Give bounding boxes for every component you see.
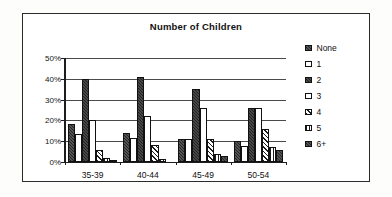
bar-group bbox=[231, 58, 286, 162]
plot-area: 0%10%20%30%40%50%35-3940-4445-4950-54 bbox=[65, 58, 286, 162]
bar-group bbox=[120, 58, 175, 162]
y-axis-tick-label: 20% bbox=[45, 116, 61, 125]
bar bbox=[110, 160, 117, 162]
bar bbox=[200, 108, 207, 162]
bar bbox=[262, 129, 269, 162]
bar bbox=[151, 145, 158, 162]
bar bbox=[178, 139, 185, 162]
y-axis-tick-label: 50% bbox=[45, 54, 61, 63]
bar bbox=[269, 147, 276, 162]
legend-label: 6+ bbox=[317, 139, 327, 149]
legend-label: 5 bbox=[317, 123, 322, 133]
bar bbox=[130, 138, 137, 162]
bar-group bbox=[65, 58, 120, 162]
legend-label: 1 bbox=[317, 59, 322, 69]
bar bbox=[255, 108, 262, 162]
x-tick-mark bbox=[65, 162, 66, 165]
x-tick-mark bbox=[120, 162, 121, 165]
legend-label: 2 bbox=[317, 75, 322, 85]
legend-item-2: 2 bbox=[305, 72, 367, 88]
legend-item-none: None bbox=[305, 40, 367, 56]
legend-swatch-icon bbox=[305, 141, 312, 148]
x-tick-mark bbox=[286, 162, 287, 165]
y-axis-tick-label: 40% bbox=[45, 74, 61, 83]
chart-frame: Number of Children 0%10%20%30%40%50%35-3… bbox=[22, 13, 370, 182]
x-axis-category-label: 35-39 bbox=[82, 170, 104, 180]
chart-legend: None123456+ bbox=[305, 40, 367, 152]
x-axis-category-label: 40-44 bbox=[137, 170, 159, 180]
legend-item-4: 4 bbox=[305, 104, 367, 120]
bar bbox=[192, 89, 199, 162]
legend-swatch-icon bbox=[305, 45, 312, 52]
bar bbox=[248, 108, 255, 162]
bar bbox=[137, 77, 144, 162]
bar bbox=[221, 156, 228, 162]
bar bbox=[207, 139, 214, 162]
legend-swatch-icon bbox=[305, 61, 312, 68]
legend-item-3: 3 bbox=[305, 88, 367, 104]
bar bbox=[103, 158, 110, 162]
bar-group bbox=[176, 58, 231, 162]
legend-swatch-icon bbox=[305, 125, 312, 132]
chart-title: Number of Children bbox=[23, 21, 369, 32]
y-axis-tick-label: 0% bbox=[49, 158, 61, 167]
page-background: Number of Children 0%10%20%30%40%50%35-3… bbox=[0, 0, 392, 197]
bar bbox=[68, 124, 75, 162]
bar bbox=[144, 116, 151, 162]
x-tick-mark bbox=[176, 162, 177, 165]
bar bbox=[214, 154, 221, 162]
bar bbox=[241, 146, 248, 162]
legend-label: None bbox=[317, 43, 337, 53]
bar bbox=[89, 120, 96, 162]
legend-item-6plus: 6+ bbox=[305, 136, 367, 152]
y-axis-tick-label: 10% bbox=[45, 137, 61, 146]
legend-item-1: 1 bbox=[305, 56, 367, 72]
bar bbox=[234, 141, 241, 162]
bar bbox=[159, 159, 166, 162]
bar bbox=[123, 133, 130, 162]
legend-swatch-icon bbox=[305, 109, 312, 116]
x-tick-mark bbox=[231, 162, 232, 165]
bar bbox=[276, 150, 283, 162]
legend-swatch-icon bbox=[305, 77, 312, 84]
legend-label: 3 bbox=[317, 91, 322, 101]
legend-label: 4 bbox=[317, 107, 322, 117]
x-axis-category-label: 45-49 bbox=[192, 170, 214, 180]
x-axis-category-label: 50-54 bbox=[248, 170, 270, 180]
legend-swatch-icon bbox=[305, 93, 312, 100]
bar bbox=[96, 150, 103, 162]
bar bbox=[185, 139, 192, 162]
legend-item-5: 5 bbox=[305, 120, 367, 136]
y-axis-tick-label: 30% bbox=[45, 95, 61, 104]
bar bbox=[82, 79, 89, 162]
bar bbox=[75, 134, 82, 162]
